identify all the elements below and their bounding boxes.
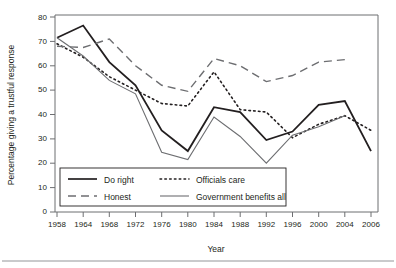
chart-figure: Percentage giving a trustful response 80… [0, 0, 396, 268]
legend-label-officials-care: Officials care [196, 175, 245, 185]
x-tick-label: 2000 [310, 220, 328, 229]
x-tick-label: 2004 [336, 220, 354, 229]
line-chart: Percentage giving a trustful response 80… [0, 0, 396, 268]
legend-label-honest: Honest [104, 192, 132, 202]
x-tick-labels: 1958 1964 1968 1972 1976 1980 1984 1988 … [48, 220, 380, 229]
y-tick-label: 20 [38, 158, 47, 167]
y-tick-label: 60 [38, 61, 47, 70]
x-axis-title: Year [207, 244, 224, 254]
legend-label-government-benefits-all: Government benefits all [196, 192, 286, 202]
series-line-officials-care [57, 44, 371, 138]
x-tick-label: 1984 [205, 220, 223, 229]
series-line-do-right [57, 26, 371, 152]
y-tick-label: 40 [38, 110, 47, 119]
y-tick-marks [50, 17, 55, 212]
x-tick-label: 1980 [179, 220, 197, 229]
legend-label-do-right: Do right [104, 175, 134, 185]
x-tick-label: 1996 [284, 220, 302, 229]
y-tick-label: 0 [43, 207, 48, 216]
x-tick-label: 1964 [74, 220, 92, 229]
y-tick-label: 30 [38, 134, 47, 143]
x-tick-label: 1958 [48, 220, 66, 229]
y-tick-labels: 80 70 60 50 40 30 20 10 0 [38, 13, 47, 216]
series-layer [57, 26, 371, 164]
x-tick-marks [57, 212, 371, 217]
chart-legend: Do right Officials care Honest Governmen… [60, 168, 286, 206]
y-tick-label: 50 [38, 85, 47, 94]
y-tick-label: 80 [38, 13, 47, 22]
y-tick-label: 10 [38, 183, 47, 192]
x-tick-label: 1988 [231, 220, 249, 229]
x-tick-label: 1976 [153, 220, 171, 229]
y-axis-title: Percentage giving a trustful response [6, 45, 16, 186]
y-tick-label: 70 [38, 37, 47, 46]
x-tick-label: 1968 [100, 220, 118, 229]
x-tick-label: 1992 [257, 220, 275, 229]
series-line-honest [57, 39, 345, 91]
series-line-government-benefits-all [57, 38, 345, 164]
x-tick-label: 1972 [127, 220, 145, 229]
x-tick-label: 2006 [362, 220, 380, 229]
